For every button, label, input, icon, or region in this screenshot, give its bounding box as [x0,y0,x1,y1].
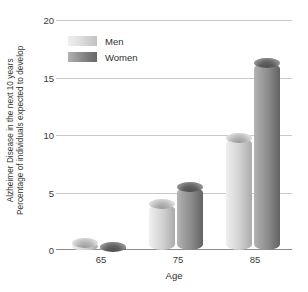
bar-cap-icon [100,242,126,252]
legend-swatch-men-icon [68,36,97,46]
y-tick-label-5: 5 [32,187,54,198]
y-tick-label-0: 0 [32,245,54,256]
y-tick-label-20: 20 [32,15,54,26]
bar-cap-icon [72,238,98,248]
x-axis-tick-labels: 65 75 85 [56,254,292,268]
plot-area: Men Women [56,20,292,250]
legend-item-women: Women [68,50,138,64]
bar-women-75 [177,187,203,250]
bar-group-85 [224,20,286,250]
bar-cap-icon [226,133,252,143]
legend-label-women: Women [105,52,138,63]
bar-cap-icon [149,199,175,209]
bar-women-65 [100,247,126,250]
bar-women-85 [254,63,280,250]
x-tick-label-85: 85 [225,254,285,265]
bar-men-75 [149,204,175,250]
alzheimer-risk-bar-chart: Percentage of individuals expected to de… [0,0,308,292]
legend: Men Women [68,34,138,66]
legend-swatch-women-icon [68,52,97,62]
bar-cap-icon [254,58,280,68]
y-axis-title-line-1: Percentage of individuals expected to de… [16,45,26,214]
bar-men-65 [72,243,98,250]
x-tick-label-75: 75 [148,254,208,265]
legend-label-men: Men [105,36,123,47]
bar-men-85 [226,138,252,250]
y-tick-label-15: 15 [32,72,54,83]
legend-item-men: Men [68,34,138,48]
y-axis-tick-labels: 20 15 10 5 0 [28,20,54,250]
bar-group-75 [147,20,209,250]
x-axis-title: Age [56,270,292,281]
y-axis-title-line-2: Alzheimer Disease in the next 10 years [6,58,16,202]
y-tick-label-10: 10 [32,130,54,141]
bar-cap-icon [177,182,203,192]
x-tick-label-65: 65 [71,254,131,265]
